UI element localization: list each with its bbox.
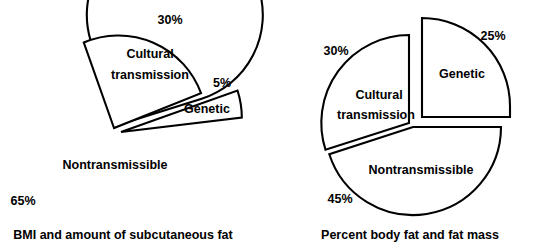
right-chart-caption: Percent body fat and fat mass (321, 228, 499, 242)
pie-charts-svg: Cultural transmission Genetic Nontransmi… (0, 0, 549, 251)
left-percent-cultural: 30% (157, 13, 182, 27)
left-label-genetic: Genetic (184, 102, 230, 116)
right-pie-chart: Genetic Cultural transmission Nontransmi… (321, 18, 510, 242)
right-label-cultural-line1: Cultural (355, 88, 402, 102)
left-chart-caption: BMI and amount of subcutaneous fat (13, 228, 233, 242)
right-percent-cultural: 30% (323, 44, 348, 58)
left-label-cultural-line1: Cultural (126, 47, 173, 61)
right-label-nontransmissible: Nontransmissible (369, 163, 474, 177)
left-percent-genetic: 5% (213, 76, 231, 90)
right-label-genetic: Genetic (439, 67, 485, 81)
left-percent-nontransmissible: 65% (10, 194, 35, 208)
right-percent-nontransmissible: 45% (327, 192, 352, 206)
two-pie-chart-figure: Cultural transmission Genetic Nontransmi… (0, 0, 549, 251)
right-label-cultural-line2: transmission (337, 108, 415, 122)
left-label-nontransmissible: Nontransmissible (63, 158, 168, 172)
left-pie-chart: Cultural transmission Genetic Nontransmi… (10, 0, 262, 242)
right-percent-genetic: 25% (480, 29, 505, 43)
left-label-cultural-line2: transmission (111, 68, 189, 82)
